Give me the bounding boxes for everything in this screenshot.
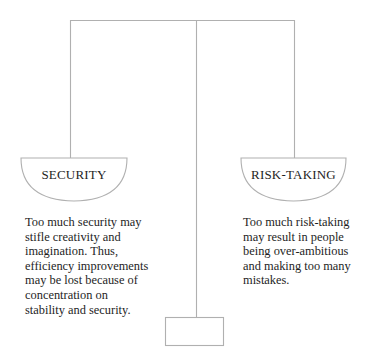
right-pan-label: RISK-TAKING (241, 167, 346, 183)
description-line: Too much risk-taking (243, 215, 351, 230)
description-line: may result in people (243, 230, 351, 245)
description-line: may be lost because of (25, 273, 148, 288)
description-line: concentration on (25, 288, 148, 303)
scale-base (166, 318, 224, 346)
description-line: efficiency improvements (25, 259, 148, 274)
description-line: being over-ambitious (243, 244, 351, 259)
description-line: and making too many (243, 259, 351, 274)
description-line: stifle creativity and (25, 230, 148, 245)
description-line: Too much security may (25, 215, 148, 230)
left-pan-description: Too much security may stifle creativity … (25, 215, 148, 317)
right-pan-description: Too much risk-taking may result in peopl… (243, 215, 351, 288)
description-line: mistakes. (243, 273, 351, 288)
description-line: stability and security. (25, 303, 148, 318)
left-pan-label: SECURITY (21, 167, 127, 183)
description-line: imagination. Thus, (25, 244, 148, 259)
